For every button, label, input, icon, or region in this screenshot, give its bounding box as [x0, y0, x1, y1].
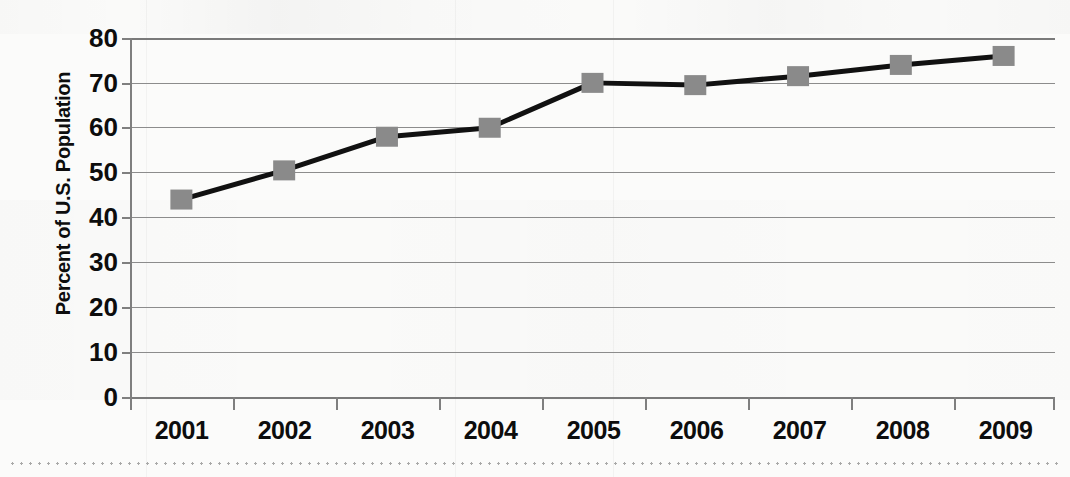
- gridline-30: [130, 262, 1055, 263]
- x-tick-label: 2006: [645, 418, 748, 443]
- gridline-60: [130, 127, 1055, 128]
- y-tick-label: 40: [56, 204, 118, 230]
- x-tick-mark: [851, 397, 853, 410]
- x-tick-mark: [130, 397, 132, 410]
- y-axis-line: [130, 38, 132, 399]
- x-tick-label: 2003: [336, 418, 439, 443]
- x-tick-label: 2005: [542, 418, 645, 443]
- x-axis-line: [130, 397, 1055, 399]
- gridline-80: [130, 38, 1055, 40]
- gridline-50: [130, 172, 1055, 173]
- scan-artifact-top: [0, 0, 1070, 34]
- chart-figure: Percent of U.S. Population 80 70 60 50 4…: [0, 0, 1070, 477]
- gridline-70: [130, 83, 1055, 84]
- plot-area: [130, 38, 1055, 397]
- y-tick-label: 80: [56, 25, 118, 51]
- x-tick-label: 2007: [748, 418, 851, 443]
- x-tick-label: 2001: [130, 418, 233, 443]
- x-tick-label: 2008: [851, 418, 954, 443]
- y-tick-label: 20: [56, 294, 118, 320]
- y-tick-label: 0: [56, 384, 118, 410]
- x-tick-mark: [645, 397, 647, 410]
- x-tick-mark: [748, 397, 750, 410]
- x-tick-mark: [1053, 397, 1055, 410]
- gridline-20: [130, 307, 1055, 308]
- x-tick-label: 2004: [439, 418, 542, 443]
- scan-dotted-rule: [8, 462, 1062, 465]
- gridline-40: [130, 217, 1055, 218]
- x-tick-label: 2002: [233, 418, 336, 443]
- gridline-10: [130, 352, 1055, 353]
- y-axis-tick-labels: 80 70 60 50 40 30 20 10 0: [50, 0, 118, 477]
- x-tick-mark: [439, 397, 441, 410]
- x-tick-mark: [542, 397, 544, 410]
- x-tick-mark: [336, 397, 338, 410]
- y-tick-label: 60: [56, 114, 118, 140]
- y-tick-label: 10: [56, 339, 118, 365]
- x-tick-mark: [954, 397, 956, 410]
- y-tick-label: 50: [56, 159, 118, 185]
- y-tick-label: 70: [56, 70, 118, 96]
- y-tick-label: 30: [56, 249, 118, 275]
- x-tick-mark: [233, 397, 235, 410]
- x-tick-label: 2009: [954, 418, 1057, 443]
